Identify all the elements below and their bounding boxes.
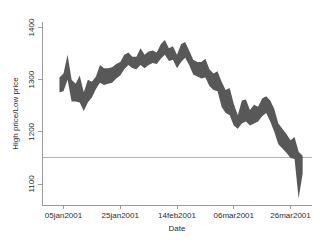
x-tick-label: 06mar2001 xyxy=(214,211,255,220)
price-range-band xyxy=(59,40,302,199)
y-tick-label: 1100 xyxy=(27,175,36,193)
chart-container: 110012001300140005jan200125jan200114feb2… xyxy=(0,0,324,251)
range-area-plot: 110012001300140005jan200125jan200114feb2… xyxy=(0,0,324,251)
x-tick-label: 05jan2001 xyxy=(45,211,83,220)
y-axis-title: High price/Low price xyxy=(11,77,20,150)
y-tick-label: 1200 xyxy=(27,122,36,140)
y-tick-label: 1400 xyxy=(27,18,36,36)
x-tick-label: 14feb2001 xyxy=(158,211,196,220)
x-axis-title: Date xyxy=(169,224,186,233)
x-tick-label: 25jan2001 xyxy=(102,211,140,220)
x-tick-label: 26mar2001 xyxy=(270,211,311,220)
y-tick-label: 1300 xyxy=(27,70,36,88)
